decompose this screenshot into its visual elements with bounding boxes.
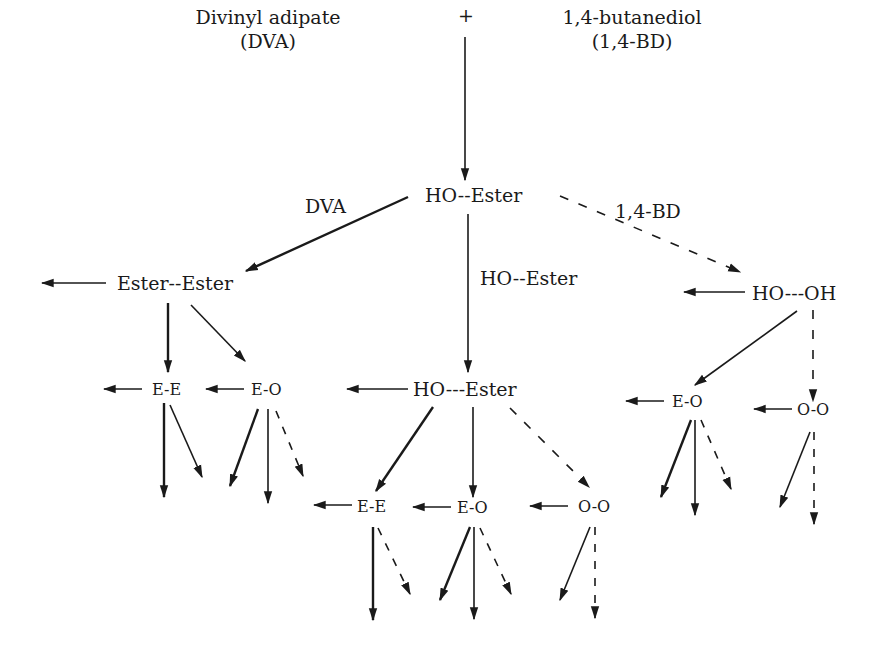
arrow-ho-ester-2-to-ee: [376, 407, 433, 491]
reactant-bd-name: 1,4-butanediol: [562, 6, 701, 28]
reactant-dva-name: Divinyl adipate: [195, 6, 340, 28]
arrow-ee-left-diag: [170, 405, 202, 477]
arrow-eo-right-thick: [661, 420, 691, 497]
arrow-eo-left-thick: [230, 409, 258, 486]
reaction-pathway-diagram: [0, 0, 893, 657]
arrow-oo-right-diag: [780, 432, 810, 507]
arrow-eo-left-dashed: [276, 411, 303, 476]
node-ho-ester-2: HO---Ester: [413, 378, 517, 400]
arrow-eo-mid-thick: [440, 527, 470, 600]
edge-label-ho-ester: HO--Ester: [480, 267, 577, 289]
node-ho-ester: HO--Ester: [425, 184, 522, 206]
node-eo-left: E-O: [251, 379, 282, 401]
arrow-oo-mid-diag: [560, 527, 590, 600]
node-ee-mid: E-E: [357, 496, 386, 518]
arrow-eo-mid-dashed: [480, 528, 511, 594]
reactant-bd-abbr: (1,4-BD): [592, 30, 673, 52]
arrow-ho-ester-2-to-oo: [510, 408, 589, 487]
node-eo-mid: E-O: [457, 497, 488, 519]
arrow-ee-mid-dashed: [378, 528, 410, 594]
arrow-ester-ester-to-eo: [191, 305, 245, 361]
edge-label-bd: 1,4-BD: [615, 200, 681, 222]
node-oo-right: O-O: [797, 399, 829, 421]
node-oo-mid: O-O: [578, 496, 610, 518]
arrow-eo-right-dashed: [701, 420, 731, 489]
node-ester-ester: Ester--Ester: [117, 272, 233, 294]
edge-label-dva: DVA: [305, 195, 346, 217]
reactant-dva-abbr: (DVA): [240, 30, 296, 52]
node-ho-oh: HO---OH: [752, 282, 836, 304]
node-ee-left: E-E: [152, 379, 181, 401]
node-eo-right: E-O: [672, 391, 703, 413]
arrow-ho-oh-to-eo: [695, 311, 797, 385]
plus-sign: +: [458, 4, 474, 26]
